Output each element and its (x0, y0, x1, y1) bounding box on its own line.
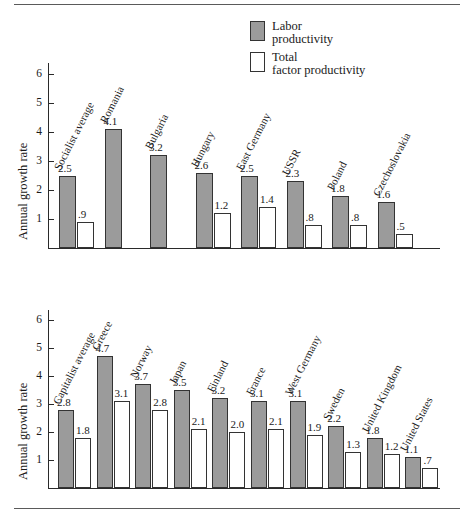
bar-total-factor-productivity (75, 438, 91, 488)
y-tick-label: 5 (20, 342, 42, 354)
bar-total-factor-productivity (191, 429, 207, 488)
bar-labor-productivity (378, 202, 395, 248)
bar-value-label: 2.8 (153, 397, 167, 408)
bar-total-factor-productivity (259, 207, 276, 248)
legend-swatch-labor-icon (250, 21, 265, 41)
bar-total-factor-productivity (350, 225, 367, 248)
bar-total-factor-productivity (152, 410, 168, 488)
bar-total-factor-productivity (305, 225, 322, 248)
y-tick (48, 190, 54, 191)
y-tick-label: 4 (20, 126, 42, 138)
bar-labor-productivity (105, 129, 122, 248)
y-tick-label: 6 (20, 68, 42, 80)
y-tick (48, 74, 54, 75)
bar-total-factor-productivity (114, 401, 130, 488)
bar-value-label: 3.1 (115, 388, 129, 399)
bar-labor-productivity (287, 181, 304, 248)
y-tick (48, 348, 54, 349)
bar-labor-productivity (241, 176, 258, 249)
bar-total-factor-productivity (307, 435, 323, 488)
category-label: Poland (325, 160, 349, 192)
legend-item-labor: Labor productivity (250, 20, 365, 45)
category-label: Czechoslovakia (371, 131, 412, 198)
legend-item-tfp: Total factor productivity (250, 51, 365, 76)
x-axis-baseline (48, 248, 440, 249)
bar-value-label: 1.4 (260, 194, 274, 205)
y-tick (48, 103, 54, 104)
bar-total-factor-productivity (396, 234, 413, 249)
bar-value-label: 1.3 (346, 439, 360, 450)
bar-labor-productivity (58, 410, 74, 488)
bar-labor-productivity (135, 384, 151, 488)
bar-total-factor-productivity (345, 452, 361, 488)
y-axis-line (48, 63, 49, 248)
legend-swatch-tfp-icon (250, 52, 265, 72)
bar-labor-productivity (251, 401, 267, 488)
bar-value-label: 2.0 (230, 419, 244, 430)
legend: Labor productivity Total factor producti… (250, 20, 365, 82)
bar-value-label: 2.1 (192, 416, 206, 427)
y-tick-label: 5 (20, 97, 42, 109)
bar-labor-productivity (212, 398, 228, 488)
bar-value-label: .5 (397, 221, 405, 232)
category-label: West Germany (283, 334, 322, 397)
bar-value-label: 1.2 (215, 200, 229, 211)
y-tick (48, 320, 54, 321)
bar-labor-productivity (328, 426, 344, 488)
bar-total-factor-productivity (77, 222, 94, 248)
y-tick (48, 404, 54, 405)
bar-value-label: .9 (78, 209, 86, 220)
bar-total-factor-productivity (268, 429, 284, 488)
legend-label-tfp-line1: Total (272, 51, 365, 64)
bar-total-factor-productivity (422, 468, 438, 488)
category-label: France (244, 366, 267, 398)
y-axis-title: Annual growth rate (16, 143, 31, 240)
y-tick (48, 376, 54, 377)
legend-label-labor-line1: Labor (272, 20, 365, 33)
category-label: United Kingdom (360, 362, 404, 433)
bar-value-label: .8 (306, 212, 314, 223)
bar-labor-productivity (290, 401, 306, 488)
y-tick (48, 132, 54, 133)
bar-labor-productivity (367, 438, 383, 488)
bar-total-factor-productivity (384, 454, 400, 488)
y-tick (48, 219, 54, 220)
bar-labor-productivity (405, 457, 421, 488)
chart-capitalist: 123456Annual growth rate2.81.8Capitalist… (0, 276, 474, 508)
bar-labor-productivity (174, 390, 190, 488)
bar-value-label: 2.1 (269, 416, 283, 427)
bar-total-factor-productivity (229, 432, 245, 488)
bar-labor-productivity (150, 155, 167, 248)
bar-labor-productivity (59, 176, 76, 249)
bar-labor-productivity (97, 356, 113, 488)
bar-value-label: 1.9 (308, 422, 322, 433)
y-tick-label: 4 (20, 370, 42, 382)
bar-value-label: 1.8 (76, 425, 90, 436)
bar-labor-productivity (196, 173, 213, 248)
chart-socialist: 123456Annual growth rate2.5.9Socialist a… (0, 14, 474, 264)
y-axis-title: Annual growth rate (16, 383, 31, 480)
category-label: Socialist average (52, 100, 96, 172)
bottom-rule (14, 508, 460, 509)
y-axis-line (48, 310, 49, 488)
top-rule (14, 4, 460, 5)
bar-labor-productivity (332, 196, 349, 248)
legend-label-labor-line2: productivity (272, 33, 365, 46)
bar-total-factor-productivity (214, 213, 231, 248)
bar-value-label: .8 (351, 212, 359, 223)
category-label: Greece (90, 320, 114, 353)
bar-value-label: .7 (423, 455, 431, 466)
category-label: Capitalist average (51, 330, 97, 405)
y-tick-label: 6 (20, 314, 42, 326)
y-tick (48, 460, 54, 461)
y-tick (48, 432, 54, 433)
x-axis-baseline (48, 488, 440, 489)
legend-label-tfp-line2: factor productivity (272, 64, 365, 77)
